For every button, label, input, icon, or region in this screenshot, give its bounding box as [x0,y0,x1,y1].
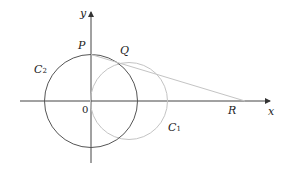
origin-label: 0 [82,105,88,115]
circle-c2-label: C2 [34,64,47,75]
x-axis-label: x [268,106,274,117]
geometry-figure [0,0,286,171]
circle-c1-label: C1 [168,122,181,133]
point-r-label: R [228,105,236,116]
c2-subscript: 2 [42,67,46,75]
y-axis-label: y [80,8,86,19]
line-p-r [91,55,245,102]
point-p-label: P [78,40,85,51]
c1-subscript: 1 [176,125,180,133]
diagram: y x P Q R 0 C2 C1 [0,0,286,171]
point-q-label: Q [120,45,129,56]
